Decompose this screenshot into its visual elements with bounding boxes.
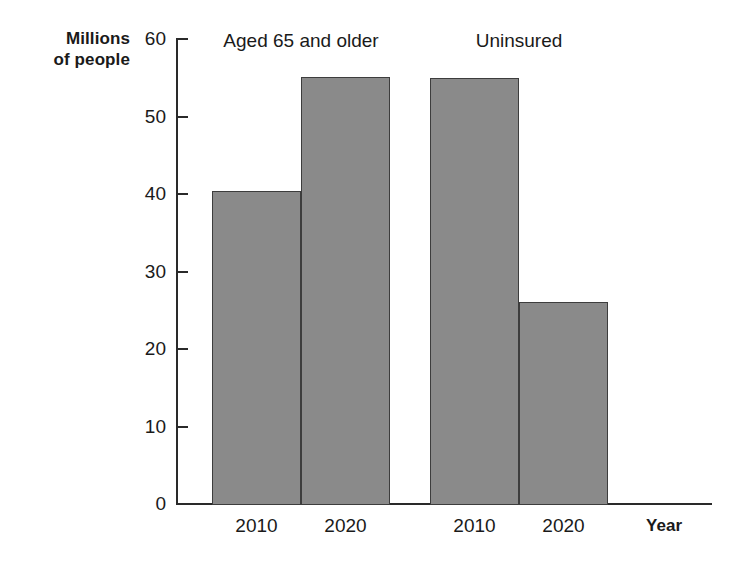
bar bbox=[519, 302, 608, 506]
y-tick-mark bbox=[178, 348, 188, 350]
y-tick-label: 60 bbox=[120, 29, 166, 48]
y-tick-label: 0 bbox=[120, 494, 166, 513]
y-tick-label: 30 bbox=[120, 262, 166, 281]
x-tick-label: 2010 bbox=[430, 516, 519, 535]
bar-chart: Millions of people Year 6050403020100 20… bbox=[0, 0, 743, 565]
bar bbox=[430, 78, 519, 505]
y-axis-title: Millions of people bbox=[8, 28, 130, 70]
x-tick-label: 2020 bbox=[301, 516, 390, 535]
y-tick-label: 50 bbox=[120, 107, 166, 126]
bar bbox=[301, 77, 390, 505]
y-tick-mark bbox=[178, 271, 188, 273]
y-tick-label: 10 bbox=[120, 417, 166, 436]
y-tick-label: 20 bbox=[120, 339, 166, 358]
y-tick-mark bbox=[178, 426, 188, 428]
y-tick-mark bbox=[178, 503, 188, 505]
y-tick-mark bbox=[178, 193, 188, 195]
y-tick-mark bbox=[178, 116, 188, 118]
bar bbox=[212, 191, 301, 505]
x-axis-title: Year bbox=[646, 516, 716, 536]
x-tick-label: 2020 bbox=[519, 516, 608, 535]
x-tick-label: 2010 bbox=[212, 516, 301, 535]
plot-area bbox=[176, 38, 712, 505]
y-tick-label: 40 bbox=[120, 184, 166, 203]
y-tick-mark bbox=[178, 38, 188, 40]
